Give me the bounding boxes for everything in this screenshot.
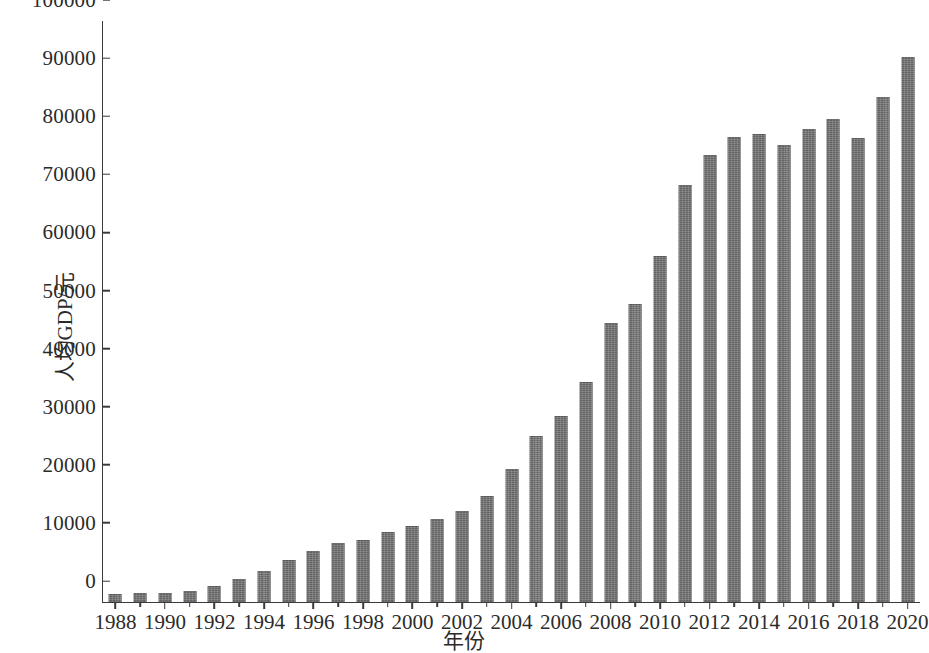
x-axis-tick-mark [783,602,785,607]
y-axis-tick-label: 80000 [43,106,104,127]
bar [654,256,667,602]
bar [678,185,691,602]
bar [332,543,345,602]
x-axis-tick-mark [313,602,315,609]
bar [802,129,815,602]
bar [777,145,790,602]
x-axis-tick-label: 2008 [590,612,632,633]
y-axis-tick: 80000 [43,106,104,127]
bar [728,137,741,602]
y-axis-tick: 70000 [43,164,104,185]
y-axis-tick-label: 100000 [32,0,103,11]
bar [604,323,617,602]
y-axis-tick-mark [103,174,110,176]
x-axis-tick-label: 2020 [887,612,929,633]
bar [555,416,568,603]
y-axis-tick: 0 [85,571,103,592]
x-axis-tick-mark [486,602,488,607]
x-axis-tick-label: 1994 [243,612,285,633]
x-axis-label: 年份 [443,624,485,653]
bar [307,551,320,602]
bar [158,593,171,602]
y-axis-tick: 40000 [43,338,104,359]
bar [134,593,147,602]
y-axis-tick-label: 90000 [43,48,104,69]
x-axis-tick-mark [139,602,141,607]
x-axis-tick-mark [907,602,909,609]
y-axis-tick-mark [103,464,110,466]
x-axis-tick-label: 1990 [144,612,186,633]
x-axis-tick-mark [882,602,884,607]
x-axis-tick-mark [684,602,686,607]
bar [381,532,394,602]
y-axis-tick-mark [103,232,110,234]
y-axis-tick: 100000 [32,0,103,11]
y-axis-tick-label: 0 [85,571,103,592]
bar [505,469,518,602]
bar [480,496,493,602]
y-axis-tick-mark [103,348,110,350]
y-axis-tick-mark [103,580,110,582]
y-axis-tick-mark [103,0,110,1]
bar [455,511,468,602]
x-axis-tick-mark [387,602,389,607]
x-axis-tick-mark [808,602,810,609]
x-axis-tick-mark [436,602,438,607]
bar [431,519,444,602]
x-axis-tick-mark [214,602,216,609]
y-axis-tick: 60000 [43,222,104,243]
y-axis-tick: 30000 [43,396,104,417]
y-axis-tick-label: 20000 [43,454,104,475]
bar [579,382,592,602]
y-axis-tick-mark [103,290,110,292]
bar [827,119,840,602]
bar [257,571,270,602]
bar [233,579,246,602]
y-axis-tick-label: 70000 [43,164,104,185]
x-axis-tick-mark [535,602,537,607]
x-axis-tick-label: 1996 [292,612,334,633]
y-axis-tick-label: 60000 [43,222,104,243]
y-axis-tick-mark [103,115,110,117]
x-axis-tick-label: 2012 [689,612,731,633]
y-axis-tick: 90000 [43,48,104,69]
bar [208,586,221,602]
x-axis-tick-label: 1998 [342,612,384,633]
x-axis-tick-mark [634,602,636,607]
x-axis-tick-mark [585,602,587,607]
bar [629,304,642,602]
y-axis-tick-label: 40000 [43,338,104,359]
x-axis-tick-mark [461,602,463,609]
y-axis-tick-mark [103,406,110,408]
y-axis-tick: 10000 [43,512,104,533]
bar [356,540,369,602]
bar [530,436,543,602]
bar [406,526,419,602]
y-axis-tick: 50000 [43,280,104,301]
bar [901,57,914,602]
y-axis-tick-label: 50000 [43,280,104,301]
x-axis-tick-mark [115,602,117,609]
y-axis-tick-mark [103,57,110,59]
x-axis-tick-mark [337,602,339,607]
x-axis-tick-label: 2000 [391,612,433,633]
x-axis-tick-label: 2016 [788,612,830,633]
plot-area: 0100002000030000400005000060000700008000… [102,21,920,603]
x-axis-tick-mark [412,602,414,609]
y-axis-tick-mark [103,522,110,524]
y-axis-tick-label: 30000 [43,396,104,417]
x-axis-tick-mark [238,602,240,607]
x-axis-tick-mark [362,602,364,609]
x-axis-tick-label: 2004 [491,612,533,633]
x-axis-tick-mark [734,602,736,607]
x-axis-tick-label: 2014 [738,612,780,633]
x-axis-tick-mark [263,602,265,609]
x-axis-tick-label: 2010 [639,612,681,633]
bar [282,560,295,602]
x-axis-tick-label: 1992 [193,612,235,633]
x-axis-tick-mark [857,602,859,609]
x-axis-tick-mark [189,602,191,607]
bar [852,138,865,602]
x-axis-tick-mark [560,602,562,609]
